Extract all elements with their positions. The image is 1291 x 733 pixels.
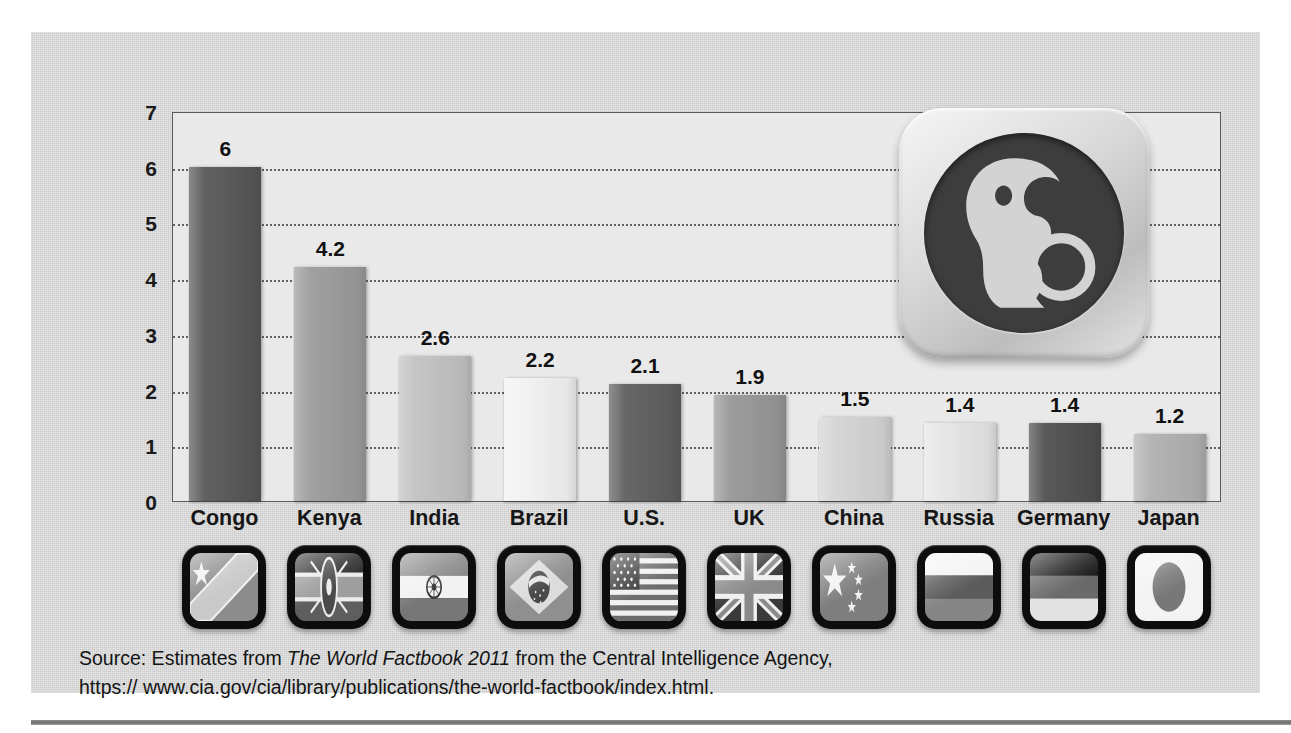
bar[interactable]: 2.6	[399, 356, 471, 501]
y-axis-tick-label: 5	[117, 213, 157, 234]
bar-value-label: 1.4	[945, 393, 974, 417]
bar[interactable]: 1.9	[714, 395, 786, 501]
y-axis: 01234567	[117, 112, 165, 502]
bar-slot: 1.5	[819, 113, 891, 501]
flag-button-brazil[interactable]	[497, 545, 581, 629]
y-axis-tick-label: 0	[117, 492, 157, 513]
bar[interactable]: 1.4	[924, 423, 996, 501]
flag-button-us[interactable]	[602, 545, 686, 629]
flag-button-congo[interactable]	[182, 545, 266, 629]
flag-congo-icon	[190, 553, 258, 621]
bar-value-label: 4.2	[316, 237, 345, 261]
y-axis-tick-label: 3	[117, 324, 157, 345]
y-axis-tick-label: 1	[117, 436, 157, 457]
bar-slot: 2.1	[609, 113, 681, 501]
category-label-brazil: Brazil	[487, 506, 592, 531]
source-prefix: Source: Estimates from	[79, 647, 287, 669]
bottom-rule	[31, 720, 1291, 725]
bar-value-label: 1.9	[735, 365, 764, 389]
bar[interactable]: 2.2	[504, 378, 576, 501]
bar[interactable]: 1.2	[1134, 434, 1206, 501]
flag-united-states-icon	[610, 553, 678, 621]
flag-button-germany[interactable]	[1022, 545, 1106, 629]
category-label-row: CongoKenyaIndiaBrazilU.S.UKChinaRussiaGe…	[172, 506, 1221, 540]
bar-value-label: 1.4	[1050, 393, 1079, 417]
category-label-russia: Russia	[906, 506, 1011, 531]
flag-china-icon	[820, 553, 888, 621]
mother-and-child-icon	[939, 148, 1109, 318]
bar-value-label: 2.1	[630, 354, 659, 378]
bar-slot: 2.2	[504, 113, 576, 501]
flag-button-kenya[interactable]	[287, 545, 371, 629]
bar[interactable]: 2.1	[609, 384, 681, 501]
category-label-congo: Congo	[172, 506, 277, 531]
flag-kenya-icon	[295, 553, 363, 621]
category-label-japan: Japan	[1116, 506, 1221, 531]
y-axis-tick-label: 2	[117, 380, 157, 401]
bar[interactable]: 6	[189, 167, 261, 501]
flag-button-russia[interactable]	[917, 545, 1001, 629]
bar-value-label: 6	[220, 137, 232, 161]
bar-slot: 6	[189, 113, 261, 501]
bar-value-label: 1.2	[1155, 404, 1184, 428]
source-publication-title: The World Factbook 2011	[287, 647, 510, 669]
flag-russia-icon	[925, 553, 993, 621]
bar-value-label: 1.5	[840, 387, 869, 411]
source-url: https:// www.cia.gov/cia/library/publica…	[79, 673, 1079, 702]
category-label-germany: Germany	[1011, 506, 1116, 531]
flag-button-india[interactable]	[392, 545, 476, 629]
flag-japan-icon	[1135, 553, 1203, 621]
chart-page: 01234567 64.22.62.22.11.91.51.41.41.2 Co…	[0, 0, 1291, 733]
flag-india-icon	[400, 553, 468, 621]
bar-slot: 2.6	[399, 113, 471, 501]
source-note: Source: Estimates from The World Factboo…	[79, 644, 1079, 702]
bar-slot: 4.2	[294, 113, 366, 501]
flag-germany-icon	[1030, 553, 1098, 621]
y-axis-tick-label: 4	[117, 269, 157, 290]
flag-brazil-icon	[505, 553, 573, 621]
y-axis-tick-label: 6	[117, 157, 157, 178]
bar-value-label: 2.2	[526, 348, 555, 372]
flag-button-china[interactable]	[812, 545, 896, 629]
source-line-1: Source: Estimates from The World Factboo…	[79, 644, 1079, 673]
bar[interactable]: 1.4	[1029, 423, 1101, 501]
bar[interactable]: 1.5	[819, 417, 891, 501]
flag-united-kingdom-icon	[715, 553, 783, 621]
mother-and-child-logo	[899, 108, 1149, 358]
chart-panel: 01234567 64.22.62.22.11.91.51.41.41.2 Co…	[31, 32, 1260, 693]
category-label-china: China	[801, 506, 906, 531]
logo-disc	[924, 133, 1124, 333]
category-label-kenya: Kenya	[277, 506, 382, 531]
bar-slot: 1.9	[714, 113, 786, 501]
bar-value-label: 2.6	[421, 326, 450, 350]
category-label-uk: UK	[697, 506, 802, 531]
flag-button-japan[interactable]	[1127, 545, 1211, 629]
flag-icon-row	[172, 545, 1221, 635]
category-label-us: U.S.	[592, 506, 697, 531]
flag-button-uk[interactable]	[707, 545, 791, 629]
y-axis-tick-label: 7	[117, 102, 157, 123]
bar[interactable]: 4.2	[294, 267, 366, 501]
category-label-india: India	[382, 506, 487, 531]
source-suffix: from the Central Intelligence Agency,	[510, 647, 833, 669]
